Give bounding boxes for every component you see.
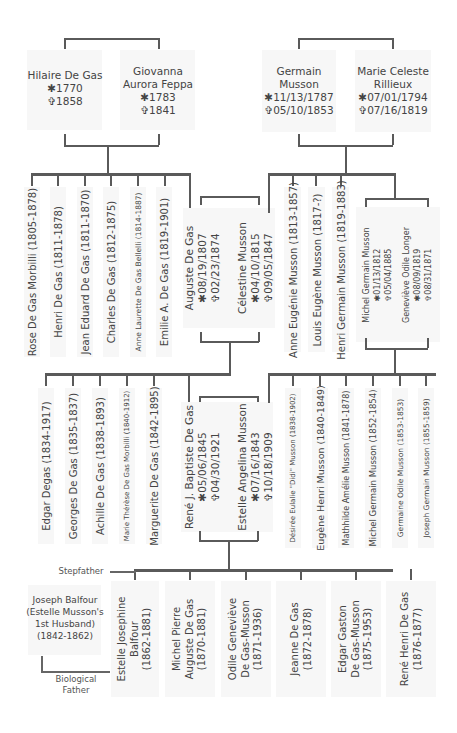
birth-date: ✱1770 [22,82,108,95]
death-date: ✞09/05/1847 [262,222,275,314]
connector [137,173,139,186]
connector [84,173,86,186]
connector [110,173,112,186]
connector [107,145,109,174]
connector [72,373,74,386]
death-date: ✞02/23/1874 [209,226,222,310]
sibling-name: Henri De Gas (1811-1878) [53,206,64,338]
person-name: Musson [256,78,342,91]
connector [300,569,302,580]
person-marie-celeste: Marie Celeste Rillieux ✱07/01/1794 ✞07/1… [350,65,436,117]
sibling-name: Henri Germain Musson (1819-1883) [335,180,346,359]
sibling-name: Mathhilde Amélie Musson (1841-1878) [342,391,351,546]
connector [392,38,394,49]
connector [188,373,190,403]
connector [64,145,159,147]
connector [268,373,270,403]
person-name: Giovanna [116,65,200,78]
death-date: ✞1841 [116,104,200,117]
connector [200,196,259,198]
sibling-name: Jean Eduard De Gas (1811-1870) [80,190,91,355]
connector [64,134,66,145]
biological-father-connector [41,656,43,672]
connector [31,173,33,186]
person-genevieve: Geneviève Odile Longer ✱08/09/1819 ✞08/3… [398,207,436,342]
death-date: ✞10/18/1909 [262,403,275,530]
person-name: Joseph Balfour [22,594,108,606]
connector [372,373,374,386]
connector [292,373,294,386]
child-estelle-josephine: Estelle Josephine Balfour (1862-1881) [111,581,159,697]
sibling-name: Rose De Gas Morbilli (1805-1878) [27,188,38,356]
death-date: ✞04/30/1921 [209,405,222,529]
death-date: ✞08/31/1871 [423,226,434,322]
person-name: Michel Germain Musson [361,227,372,322]
person-celestine: Célestine Musson ✱04/10/1815 ✞09/05/1847 [233,208,277,328]
connector [427,338,429,348]
sibling-name: Désirée Eulalie "Didi" Musson (1838-1902… [289,393,297,542]
connector [298,38,393,40]
birth-date: ✱08/19/1807 [196,226,209,310]
person-michel-germain: Michel Germain Musson ✱01/13/1812 ✞05/04… [358,207,396,342]
birth-date: ✱1783 [116,91,200,104]
connector [345,145,347,174]
birth-date: ✱05/06/1845 [196,405,209,529]
birth-date: ✱04/10/1815 [249,222,262,314]
person-auguste: Auguste De Gas ✱08/19/1807 ✞02/23/1874 [180,208,224,328]
death-date: ✞05/10/1853 [256,104,342,117]
sibling-name: Louis Eugène Musson (1817-?) [311,193,322,346]
sibling-name: Michel Germain Musson (1852-1854) [368,390,378,547]
connector [189,173,191,213]
sibling-name: Charles De Gas (1812-1875) [106,201,117,344]
birth-date: ✱01/13/1812 [372,227,383,322]
connector [427,198,429,207]
death-date: ✞07/16/1819 [350,104,436,117]
biological-father-connector [41,671,110,673]
person-name: Marie Celeste [350,65,436,78]
sibling-name: Anne Eugénie Musson (1813-1857) [287,182,298,358]
person-germain: Germain Musson ✱11/13/1787 ✞05/10/1853 [256,65,342,117]
life-span: (1842-1862) [22,630,108,642]
connector [298,38,300,49]
person-name: Hilaire De Gas [22,69,108,82]
birth-date: ✱07/01/1794 [350,91,436,104]
child-jeanne: Jeanne De Gas (1872-1878) [276,581,326,697]
sibling-name: Anne Laurette De Gas Bellelli (1814-1887… [134,193,143,352]
connector [394,348,396,375]
person-note: (Estelle Musson's [22,606,108,618]
connector [315,173,317,186]
birth-date: ✱11/13/1787 [256,91,342,104]
sibling-name: Achille De Gas (1838-1893) [95,397,106,535]
connector [268,173,270,213]
connector [399,373,401,386]
person-hilaire: Hilaire De Gas ✱1770 ✞1858 [22,69,108,108]
sibling-name: Marguerite De Gas (1842-1895) [149,386,160,545]
connector [298,134,300,145]
connector [199,396,258,398]
sibling-name: Georges De Gas (1835-1837) [68,393,79,539]
person-name: Célestine Musson [236,222,249,314]
stepfather-label: Stepfather [56,565,106,577]
sibling-name: Edgar Degas (1834-1917) [41,401,52,530]
connector [189,569,191,580]
child-rene-henri: René Henri De Gas (1876-1877) [386,581,436,697]
person-name: Estelle Angelina Musson [236,403,249,530]
death-date: ✞1858 [22,95,108,108]
person-estelle: Estelle Angelina Musson ✱07/16/1843 ✞10/… [233,402,277,532]
person-name: Geneviève Odile Longer [401,226,412,322]
connector [425,373,427,386]
connector [392,134,394,145]
connector [355,569,357,580]
connector [57,173,59,186]
connector [365,198,428,200]
connector [258,196,260,205]
child-odile-genevieve: Odile Geneviève De Gas-Musson (1871-1936… [221,581,271,697]
connector [319,373,321,386]
birth-date: ✱08/09/1819 [412,226,423,322]
person-name: Rillieux [350,78,436,91]
connector [153,373,155,386]
child-michel-pierre: Michel Pierre Auguste De Gas (1870-1881) [165,581,215,697]
person-rene: René J. Baptiste De Gas ✱05/06/1845 ✞04/… [180,402,224,532]
child-edgar-gaston: Edgar Gaston De Gas-Musson (1875-1953) [331,581,381,697]
death-date: ✞05/04/1885 [383,227,394,322]
